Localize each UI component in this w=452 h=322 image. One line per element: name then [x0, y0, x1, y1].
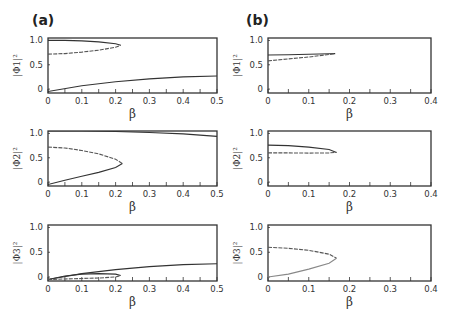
x-tick-label: 0: [265, 189, 270, 199]
x-tick-label: 0.1: [75, 96, 89, 106]
subplot-b1: 00.10.20.30.400.51.0β|Φ1|²: [232, 35, 438, 121]
x-tick-label: 0: [45, 284, 50, 294]
y-axis-label: |Φ2|²: [232, 147, 243, 170]
x-tick-label: 0.4: [176, 284, 190, 294]
y-tick-label: 1.0: [29, 128, 43, 138]
x-tick-label: 0: [45, 189, 50, 199]
y-tick-label: 0: [258, 177, 263, 187]
x-tick-label: 0.1: [75, 189, 89, 199]
y-tick-label: 0.5: [249, 60, 263, 70]
x-axis-label: β: [346, 295, 353, 309]
y-tick-label: 0.5: [29, 60, 43, 70]
x-tick-label: 0.5: [210, 189, 224, 199]
curve-upper-branch: [48, 147, 122, 164]
y-tick-label: 0.5: [249, 247, 263, 257]
x-axis-label: β: [129, 107, 136, 121]
x-tick-label: 0.3: [143, 189, 157, 199]
x-tick-label: 0.2: [343, 189, 357, 199]
curve-upper-branch: [268, 247, 337, 258]
subplot-b2: 00.10.20.30.400.51.0β|Φ2|²: [232, 128, 438, 214]
x-tick-label: 0: [265, 284, 270, 294]
x-tick-label: 0.3: [383, 96, 397, 106]
curve-loop-upper: [48, 274, 121, 280]
subplot-a2: 00.10.20.30.40.500.51.0β|Φ2|²: [12, 128, 224, 214]
x-axis-label: β: [346, 200, 353, 214]
x-tick-label: 0.4: [424, 284, 438, 294]
x-tick-label: 0.3: [143, 284, 157, 294]
axes-frame: [48, 38, 217, 93]
x-tick-label: 0.1: [75, 284, 89, 294]
y-tick-label: 1.0: [29, 35, 43, 45]
y-axis-label: |Φ1|²: [12, 54, 23, 77]
x-tick-label: 0.1: [302, 96, 316, 106]
y-tick-label: 0: [258, 272, 263, 282]
x-tick-label: 0.2: [343, 284, 357, 294]
y-axis-label: |Φ2|²: [12, 147, 23, 170]
curve-lower-branch: [268, 258, 337, 277]
subplot-b3: 00.10.20.30.400.51.0β|Φ3|²: [232, 222, 438, 309]
curve-lower-branch: [268, 152, 337, 153]
subplot-a1: 00.10.20.30.40.500.51.0β|Φ1|²: [12, 35, 224, 121]
y-tick-label: 0: [38, 177, 43, 187]
y-axis-label: |Φ1|²: [232, 54, 243, 77]
curve-lower-branch: [48, 45, 121, 54]
figure-canvas: (a) (b) 00.10.20.30.40.500.51.0β|Φ1|²00.…: [0, 0, 452, 322]
x-axis-label: β: [346, 107, 353, 121]
x-tick-label: 0.4: [424, 96, 438, 106]
panel-label-b: (b): [246, 12, 269, 28]
curve-top-branch: [48, 131, 217, 136]
subplot-a3: 00.10.20.30.40.500.51.0β|Φ3|²: [12, 222, 224, 309]
x-tick-label: 0.2: [109, 284, 123, 294]
x-tick-label: 0.1: [302, 284, 316, 294]
curve-upper-branch: [48, 40, 121, 45]
x-tick-label: 0.4: [176, 189, 190, 199]
x-tick-label: 0.5: [210, 284, 224, 294]
x-tick-label: 0: [45, 96, 50, 106]
y-tick-label: 0.5: [29, 153, 43, 163]
axes-frame: [48, 225, 217, 281]
y-tick-label: 1.0: [249, 128, 263, 138]
y-tick-label: 0.5: [249, 153, 263, 163]
x-tick-label: 0.2: [109, 96, 123, 106]
curve-lower-branch: [48, 164, 122, 185]
y-tick-label: 1.0: [249, 222, 263, 232]
x-axis-label: β: [129, 200, 136, 214]
x-tick-label: 0.4: [176, 96, 190, 106]
y-tick-label: 0: [258, 84, 263, 94]
subplot-grid: 00.10.20.30.40.500.51.0β|Φ1|²00.10.20.30…: [12, 35, 438, 309]
curve-upper-branch: [268, 145, 337, 152]
y-axis-label: |Φ3|²: [232, 241, 243, 264]
x-tick-label: 0.5: [210, 96, 224, 106]
x-tick-label: 0.2: [343, 96, 357, 106]
y-tick-label: 0: [38, 84, 43, 94]
y-tick-label: 0: [38, 272, 43, 282]
y-tick-label: 0.5: [29, 247, 43, 257]
x-tick-label: 0.4: [424, 189, 438, 199]
panel-label-a: (a): [32, 12, 54, 28]
y-tick-label: 1.0: [249, 35, 263, 45]
x-tick-label: 0.2: [109, 189, 123, 199]
y-tick-label: 1.0: [29, 222, 43, 232]
x-tick-label: 0.3: [383, 284, 397, 294]
x-axis-label: β: [129, 295, 136, 309]
axes-frame: [268, 131, 431, 186]
x-tick-label: 0.1: [302, 189, 316, 199]
axes-frame: [268, 38, 431, 93]
x-tick-label: 0.3: [143, 96, 157, 106]
y-axis-label: |Φ3|²: [12, 241, 23, 264]
x-tick-label: 0: [265, 96, 270, 106]
x-tick-label: 0.3: [383, 189, 397, 199]
